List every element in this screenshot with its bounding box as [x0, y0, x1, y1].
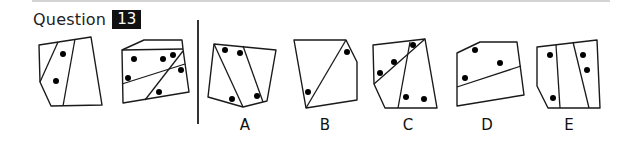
- dot: [131, 56, 137, 62]
- dot: [550, 95, 556, 101]
- option-label-d[interactable]: D: [481, 116, 493, 134]
- dot: [472, 47, 478, 53]
- shape-outline: [537, 40, 600, 108]
- dot: [53, 78, 59, 84]
- question-figure-1: [39, 37, 102, 106]
- dot: [160, 56, 166, 62]
- option-figure-e[interactable]: [537, 40, 600, 108]
- option-figure-b[interactable]: [294, 40, 357, 108]
- option-label-b[interactable]: B: [320, 116, 330, 134]
- dot: [377, 70, 383, 76]
- dot: [60, 51, 66, 57]
- dot: [178, 67, 184, 73]
- dot: [170, 52, 176, 58]
- option-figure-c[interactable]: [373, 39, 437, 108]
- dot: [391, 59, 397, 65]
- option-figure-d[interactable]: [457, 42, 524, 106]
- option-figure-a[interactable]: [208, 44, 276, 107]
- dot: [237, 50, 243, 56]
- dot: [229, 96, 235, 102]
- dot: [462, 75, 468, 81]
- dot: [580, 52, 586, 58]
- dot: [222, 47, 228, 53]
- dot: [254, 93, 260, 99]
- shape-outline: [39, 37, 102, 106]
- option-label-e[interactable]: E: [564, 116, 573, 134]
- dot: [497, 60, 503, 66]
- question-figure-2: [122, 40, 189, 103]
- dot: [410, 42, 416, 48]
- option-label-a[interactable]: A: [240, 116, 250, 134]
- dot: [156, 89, 162, 95]
- dot: [125, 75, 131, 81]
- option-label-c[interactable]: C: [403, 116, 413, 134]
- dot: [344, 49, 350, 55]
- dot: [403, 94, 409, 100]
- shape-outline: [457, 42, 524, 106]
- dot: [584, 67, 590, 73]
- dot: [421, 96, 427, 102]
- dot: [547, 52, 553, 58]
- dot: [305, 89, 311, 95]
